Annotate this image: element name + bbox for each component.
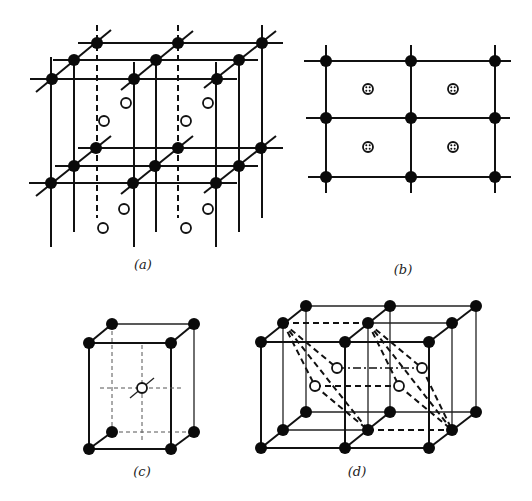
atom	[106, 318, 118, 330]
interstitial-site	[181, 223, 191, 233]
atom	[405, 171, 417, 183]
atom	[127, 177, 139, 189]
atom	[423, 336, 435, 348]
interstitial-site	[417, 363, 427, 373]
atom	[45, 177, 57, 189]
atom	[150, 54, 162, 66]
panel-a: (a)	[29, 25, 283, 272]
atom	[362, 424, 374, 436]
atom	[384, 300, 396, 312]
atom	[423, 442, 435, 454]
atom	[68, 160, 80, 172]
interstitial-site	[203, 98, 213, 108]
interstitial-site	[98, 223, 108, 233]
atom	[165, 337, 177, 349]
atom	[489, 112, 501, 124]
crossed-circle-site	[363, 142, 373, 152]
atom	[362, 317, 374, 329]
atom	[405, 55, 417, 67]
atom	[46, 73, 58, 85]
atom	[233, 54, 245, 66]
atom	[405, 112, 417, 124]
atom	[446, 424, 458, 436]
panel-c: (c)	[83, 318, 200, 479]
atom	[256, 37, 268, 49]
interstitial-site	[99, 116, 109, 126]
atom	[165, 443, 177, 455]
atom	[277, 424, 289, 436]
atom	[339, 442, 351, 454]
atom	[300, 406, 312, 418]
panel-label-b: (b)	[394, 262, 412, 277]
atom	[188, 318, 200, 330]
atom	[255, 336, 267, 348]
atom	[68, 54, 80, 66]
atom	[470, 300, 482, 312]
atom	[339, 336, 351, 348]
interstitial-site	[181, 116, 191, 126]
atom	[83, 337, 95, 349]
crossed-circle-site	[448, 142, 458, 152]
atom	[489, 55, 501, 67]
atom	[128, 73, 140, 85]
atom	[172, 142, 184, 154]
crossed-circle-site	[448, 84, 458, 94]
body-center-site	[137, 383, 147, 393]
atom	[446, 317, 458, 329]
atom	[106, 426, 118, 438]
crossed-circle-site	[363, 84, 373, 94]
atom	[489, 171, 501, 183]
panel-label-a: (a)	[134, 257, 152, 272]
crystal-lattice-figure: (a)	[0, 0, 532, 501]
atom	[188, 426, 200, 438]
interstitial-site	[121, 98, 131, 108]
atom	[90, 142, 102, 154]
interstitial-site	[119, 204, 129, 214]
panel-d: (d)	[255, 300, 482, 479]
atom	[210, 177, 222, 189]
atom	[255, 142, 267, 154]
atom	[172, 37, 184, 49]
atom	[300, 300, 312, 312]
panel-label-c: (c)	[133, 464, 150, 479]
atom	[320, 55, 332, 67]
atom	[83, 443, 95, 455]
atom	[255, 442, 267, 454]
atom	[91, 37, 103, 49]
atom	[320, 171, 332, 183]
atom	[211, 73, 223, 85]
atom	[233, 160, 245, 172]
atom	[149, 160, 161, 172]
atom	[277, 317, 289, 329]
atom	[384, 406, 396, 418]
panel-label-d: (d)	[348, 464, 366, 479]
interstitial-site	[310, 381, 320, 391]
panel-b: (b)	[304, 45, 511, 277]
interstitial-site	[203, 204, 213, 214]
atom	[470, 406, 482, 418]
interstitial-site	[332, 363, 342, 373]
atom	[320, 112, 332, 124]
interstitial-site	[394, 381, 404, 391]
